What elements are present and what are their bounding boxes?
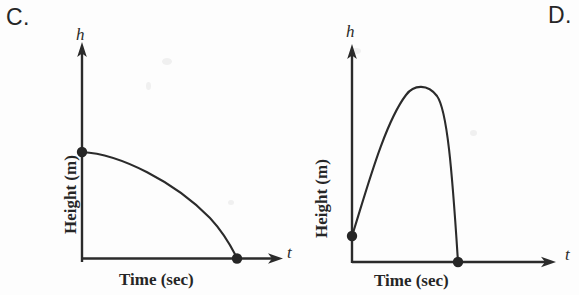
panel-c: C. h t Height (m) Time (sec): [0, 0, 300, 295]
figure-container: C. h t Height (m) Time (sec) D. h t Heig…: [0, 0, 579, 295]
start-point-marker-d: [347, 231, 357, 241]
curve-d: [352, 87, 458, 262]
plot-area-d: [280, 0, 579, 295]
end-point-marker-d: [453, 257, 463, 267]
curve-c: [82, 152, 237, 258]
panel-d: D. h t Height (m) Time (sec): [280, 0, 579, 295]
end-point-marker-c: [232, 253, 242, 263]
plot-area-c: [0, 0, 300, 295]
start-point-marker-c: [77, 147, 87, 157]
